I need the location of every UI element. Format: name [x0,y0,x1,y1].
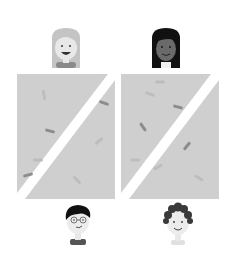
eye-icon [181,221,183,223]
bacterium-rod [155,81,165,84]
person-girl-dark-hair [152,28,180,68]
person-boy-glasses [66,205,91,245]
illustration-canvas [0,0,232,257]
eye-icon [173,221,175,223]
eye-icon [61,45,63,47]
bacterium-rod [130,159,140,162]
eye-icon [161,46,163,48]
eye-icon [73,219,75,221]
panel-gap [115,74,117,199]
slide-panel-left [17,74,117,199]
illustration-scene [0,0,232,257]
collar [161,62,171,68]
person-boy-curly-hair [163,203,193,246]
eye-icon [169,46,171,48]
face [156,37,176,61]
eye-icon [82,219,84,221]
eye-icon [69,45,71,47]
slide-panel-right [121,74,219,199]
person-girl-light-hair [52,28,80,68]
bacterium-rod [33,159,43,162]
